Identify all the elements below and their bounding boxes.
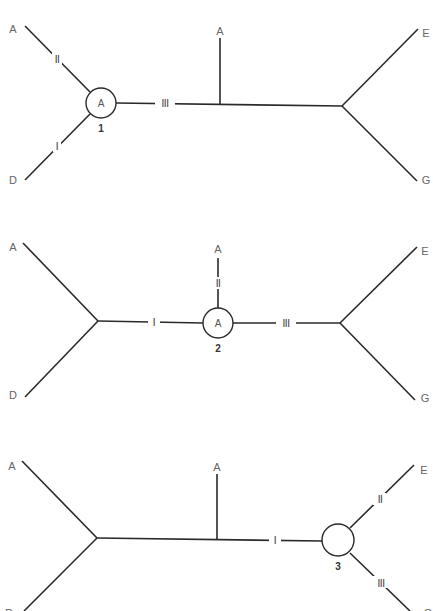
- tree-3: I II III 3 A D A E G: [5, 460, 432, 611]
- tree3-mark-i: I: [274, 535, 276, 546]
- tree1-leaf-g: G: [422, 174, 431, 186]
- tree1-leaf-d: D: [9, 174, 17, 186]
- tree1-leaf-e: E: [422, 27, 429, 39]
- tree3-branch-a: [22, 461, 97, 538]
- tree2-mark-ii: II: [216, 278, 221, 289]
- tree3-leaf-g: G: [424, 607, 433, 611]
- tree3-ancestral-node: [322, 524, 354, 556]
- tree1-leaf-mid-a: A: [216, 25, 224, 37]
- tree-2: I II III A 2 A D A E G: [9, 241, 429, 404]
- tree1-node-number: 1: [98, 123, 104, 134]
- tree1-branch-e: [342, 29, 418, 106]
- tree1-central-branch: [116, 103, 342, 106]
- tree3-mark-iii: III: [378, 578, 385, 589]
- tree2-branch-d: [25, 321, 98, 397]
- tree2-mark-i: I: [153, 317, 155, 328]
- tree1-mark-i: I: [56, 141, 58, 152]
- tree3-leaf-mid-a: A: [213, 461, 221, 473]
- tree3-branch-d: [24, 538, 97, 611]
- tree3-leaf-e: E: [420, 464, 427, 476]
- tree3-central-branch: [97, 538, 322, 541]
- tree1-leaf-a: A: [9, 23, 17, 35]
- tree-1: II I III A 1 A D A E G: [9, 23, 430, 186]
- tree3-leaf-a: A: [8, 460, 16, 472]
- tree3-node-number: 3: [335, 561, 341, 572]
- tree2-branch-a: [23, 243, 98, 321]
- tree2-leaf-mid-a: A: [214, 243, 222, 255]
- tree1-branch-g: [342, 106, 417, 181]
- tree1-mark-ii: II: [55, 54, 60, 65]
- tree2-leaf-d: D: [9, 389, 17, 401]
- tree2-node-label: A: [215, 318, 222, 329]
- tree2-mark-iii: III: [283, 318, 290, 329]
- tree1-mark-iii: III: [162, 98, 169, 109]
- tree1-node-label: A: [98, 98, 105, 109]
- phylogenetic-diagram: II I III A 1 A D A E G I II: [0, 0, 433, 611]
- tree2-node-number: 2: [215, 343, 221, 354]
- tree2-branch-g: [340, 323, 415, 400]
- tree2-leaf-g: G: [421, 392, 430, 404]
- tree3-leaf-d: D: [5, 607, 13, 611]
- tree3-mark-ii: II: [378, 494, 383, 505]
- tree2-branch-e: [340, 247, 417, 323]
- tree2-leaf-e: E: [421, 245, 428, 257]
- tree2-leaf-a: A: [9, 241, 17, 253]
